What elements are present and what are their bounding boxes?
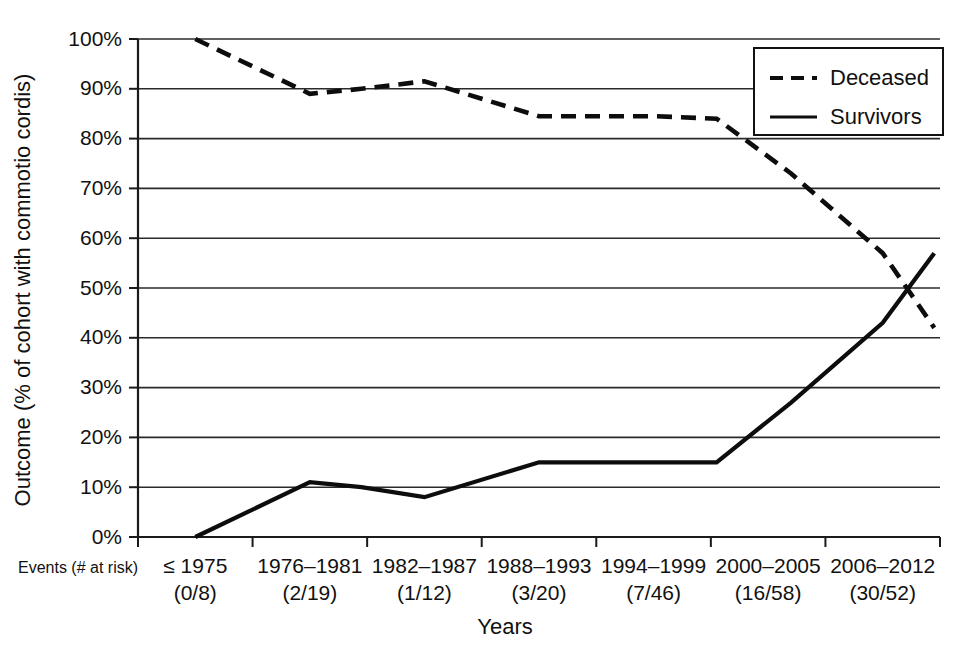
chart-legend: Deceased Survivors <box>754 48 943 135</box>
x-tick-label-period: ≤ 1975 <box>163 554 227 577</box>
y-axis-title: Outcome (% of cohort with commotio cordi… <box>10 74 35 507</box>
y-tick-label: 70% <box>80 176 122 199</box>
line-chart: 0%10%20%30%40%50%60%70%80%90%100% ≤ 1975… <box>0 0 974 658</box>
x-tick-label-period: 2006–2012 <box>830 554 935 577</box>
legend-label-survivors: Survivors <box>830 104 922 129</box>
x-tick-label-events: (2/19) <box>282 581 337 604</box>
legend-label-deceased: Deceased <box>830 65 929 90</box>
x-tick-label-period: 1982–1987 <box>372 554 477 577</box>
x-tick-label-events: (0/8) <box>174 581 217 604</box>
x-tick-label-events: (16/58) <box>735 581 802 604</box>
y-tick-label: 20% <box>80 425 122 448</box>
y-tick-label: 90% <box>80 76 122 99</box>
y-tick-label: 50% <box>80 276 122 299</box>
x-tick-label-events: (7/46) <box>626 581 681 604</box>
x-tick-label-events: (30/52) <box>849 581 916 604</box>
events-at-risk-label: Events (# at risk) <box>18 559 138 576</box>
y-tick-label: 60% <box>80 226 122 249</box>
y-tick-label: 10% <box>80 475 122 498</box>
y-tick-label: 100% <box>68 27 122 50</box>
chart-figure: 0%10%20%30%40%50%60%70%80%90%100% ≤ 1975… <box>0 0 974 658</box>
x-tick-label-period: 2000–2005 <box>716 554 821 577</box>
x-tick-label-period: 1994–1999 <box>601 554 706 577</box>
x-tick-label-period: 1976–1981 <box>257 554 362 577</box>
x-tick-label-events: (1/12) <box>397 581 452 604</box>
y-tick-label: 30% <box>80 375 122 398</box>
y-tick-label: 40% <box>80 325 122 348</box>
y-tick-label: 0% <box>92 525 122 548</box>
x-axis-title: Years <box>477 614 532 639</box>
x-tick-label-events: (3/20) <box>512 581 567 604</box>
x-tick-label-period: 1988–1993 <box>486 554 591 577</box>
y-tick-label: 80% <box>80 126 122 149</box>
